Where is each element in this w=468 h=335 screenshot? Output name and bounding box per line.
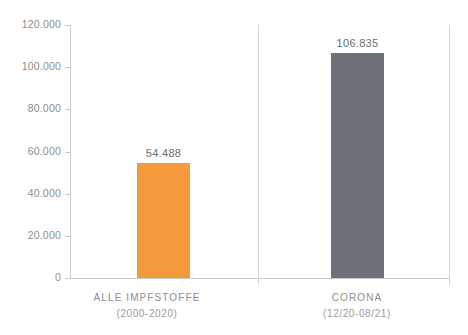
x-axis-line [70, 278, 450, 279]
y-tick-label-80000: 80.000 [28, 102, 61, 114]
category-label-corona: CORONA (12/20-08/21) [293, 292, 421, 319]
category-name-alle-impfstoffe: ALLE IMPFSTOFFE [83, 292, 211, 303]
y-tick-80000: 80.000 [0, 109, 70, 110]
y-tick-100000: 100.000 [0, 67, 70, 68]
y-tick-label-120000: 120.000 [22, 18, 61, 30]
y-tick-label-40000: 40.000 [28, 187, 61, 199]
category-label-alle-impfstoffe: ALLE IMPFSTOFFE (2000-2020) [83, 292, 211, 319]
bar-value-label-alle-impfstoffe: 54.488 [146, 147, 181, 159]
y-tick-60000: 60.000 [0, 152, 70, 153]
plot-area: 54.488 106.835 [70, 25, 449, 278]
category-subtitle-corona: (12/20-08/21) [293, 308, 421, 319]
y-tick-label-20000: 20.000 [28, 229, 61, 241]
y-tick-label-0: 0 [55, 271, 61, 283]
bar-corona[interactable]: 106.835 [331, 53, 384, 278]
y-tick-mark [65, 278, 70, 279]
y-tick-label-60000: 60.000 [28, 145, 61, 157]
category-name-corona: CORONA [293, 292, 421, 303]
y-tick-label-100000: 100.000 [22, 60, 61, 72]
y-tick-0: 0 [0, 278, 70, 279]
category-subtitle-alle-impfstoffe: (2000-2020) [83, 308, 211, 319]
bar-alle-impfstoffe[interactable]: 54.488 [137, 163, 190, 278]
y-tick-20000: 20.000 [0, 236, 70, 237]
y-tick-40000: 40.000 [0, 194, 70, 195]
bar-chart: 120.000 100.000 80.000 60.000 40.000 20.… [0, 0, 468, 335]
right-border-line [449, 25, 450, 285]
y-tick-120000: 120.000 [0, 25, 70, 26]
bar-value-label-corona: 106.835 [337, 37, 379, 49]
